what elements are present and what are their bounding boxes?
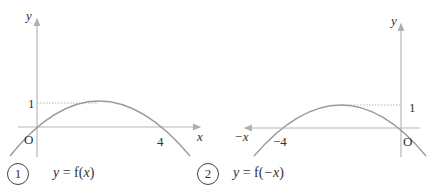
panel-number-1: 1 [7, 163, 29, 185]
root-label-2: −4 [273, 134, 287, 149]
equation-2-arg: −x [263, 165, 279, 180]
y-axis-label-1: y [24, 8, 32, 23]
origin-label-1: O [24, 132, 33, 147]
x-axis-label-1: x [196, 129, 203, 144]
equation-2-close: ) [279, 165, 284, 180]
origin-label-2: O [403, 134, 412, 149]
graph-1: y x O 4 1 [10, 8, 203, 157]
graph-2: y −x O −4 1 [234, 13, 426, 157]
max-label-2: 1 [409, 100, 416, 115]
y-axis-label-2: y [389, 13, 397, 28]
panel-number-2: 2 [197, 163, 219, 185]
equation-1: y = f(x) [53, 165, 94, 181]
equation-1-eq: = f( [59, 165, 83, 180]
equation-1-close: ) [90, 165, 95, 180]
root-label-1: 4 [157, 134, 164, 149]
equation-2-eq: = f( [239, 165, 263, 180]
equation-2: y = f(−x) [233, 165, 284, 181]
x-axis-label-2: −x [234, 129, 249, 144]
max-label-1: 1 [28, 96, 35, 111]
